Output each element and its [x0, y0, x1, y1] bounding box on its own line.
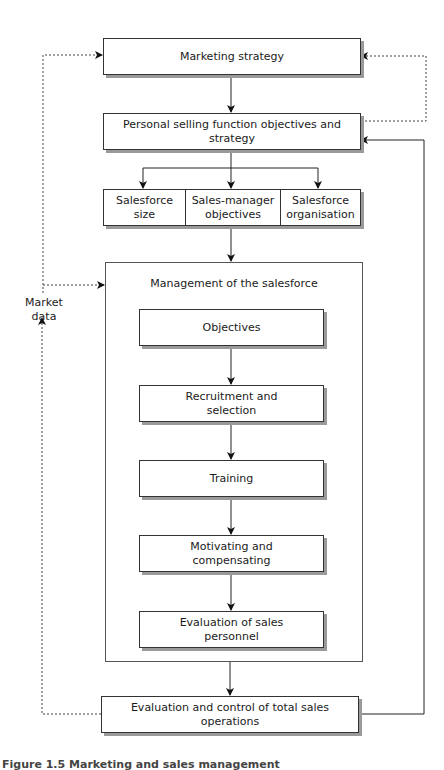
node-label: Salesforce organisation — [286, 194, 354, 222]
node-salesforce-organisation: Salesforce organisation — [280, 190, 360, 225]
node-label: Sales-manager objectives — [192, 194, 275, 222]
node-label: Salesforce size — [116, 194, 173, 222]
dotted-control-to-market-data — [42, 318, 101, 714]
node-salesforce-size: Salesforce size — [104, 190, 185, 225]
market-data-label: Market data — [19, 296, 69, 324]
dotted-market-data-to-marketing — [43, 55, 102, 293]
node-recruitment-selection: Recruitment and selection — [139, 385, 324, 422]
node-motivating-compensating: Motivating and compensating — [139, 535, 324, 572]
node-label: Motivating and compensating — [190, 540, 272, 568]
group-title: Management of the salesforce — [105, 277, 363, 291]
node-label: Objectives — [203, 321, 261, 335]
node-objectives: Objectives — [139, 309, 324, 346]
node-label: Recruitment and selection — [186, 390, 278, 418]
node-training: Training — [139, 460, 324, 497]
node-label: Personal selling function objectives and… — [104, 118, 360, 146]
node-marketing-strategy: Marketing strategy — [103, 38, 361, 75]
node-personal-selling: Personal selling function objectives and… — [103, 113, 361, 150]
figure-caption: Figure 1.5 Marketing and sales managemen… — [2, 758, 280, 770]
dotted-selling-to-marketing — [361, 56, 426, 121]
node-label: Evaluation and control of total sales op… — [102, 701, 358, 729]
node-evaluation-control: Evaluation and control of total sales op… — [101, 696, 359, 733]
node-label: Marketing strategy — [180, 50, 284, 64]
node-sales-manager-objectives: Sales-manager objectives — [185, 190, 280, 225]
feedback-control-to-selling — [358, 140, 424, 714]
node-label: Training — [210, 472, 253, 486]
node-row-salesforce: Salesforce size Sales-manager objectives… — [103, 189, 361, 226]
node-label: Evaluation of sales personnel — [180, 616, 284, 644]
node-evaluation-personnel: Evaluation of sales personnel — [139, 611, 324, 648]
